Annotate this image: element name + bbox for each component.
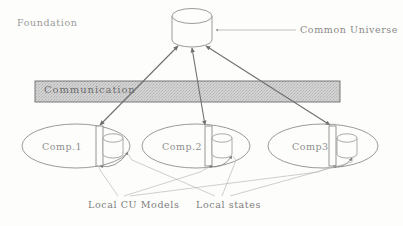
comp1-local-state-cylinder xyxy=(103,134,123,142)
comp2-local-state-cylinder xyxy=(212,134,232,142)
comp2-port xyxy=(205,126,212,166)
comp3-port xyxy=(329,126,336,166)
local-cu-models-label: Local CU Models xyxy=(88,200,179,210)
comp3-local-state-cylinder xyxy=(337,134,357,142)
comp3-label: Comp3 xyxy=(292,142,329,152)
comp2-label: Comp.2 xyxy=(162,142,202,152)
comp1-label: Comp.1 xyxy=(42,142,82,152)
common-universe-cylinder xyxy=(172,9,212,48)
common-universe-label: Common Universe xyxy=(300,25,398,35)
local-states-leaders xyxy=(128,154,353,196)
local-states-label: Local states xyxy=(196,200,261,210)
local-cu-models-leaders xyxy=(99,166,331,196)
diagram-canvas: Foundation Common Universe Communication… xyxy=(0,0,403,226)
foundation-label: Foundation xyxy=(17,18,77,28)
communication-label: Communication xyxy=(44,85,136,95)
comp1-port xyxy=(96,126,103,166)
